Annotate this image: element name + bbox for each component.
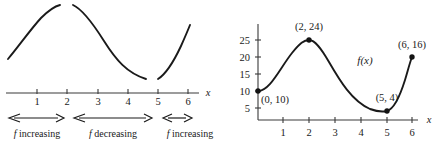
monotonicity-number-line-panel: 1 2 3 4 5 6 x	[0, 0, 222, 148]
y-tick-label-10: 10	[240, 86, 251, 97]
interval-arrow-increasing-1	[9, 114, 64, 122]
segment-caption-2-text: decreasing	[92, 128, 137, 139]
function-graph-panel: 5 10 15 20 25 1 2 3 4 5 6 x	[222, 0, 444, 148]
monotonicity-chart-svg: 1 2 3 4 5 6 x	[0, 0, 222, 148]
segment-caption-increasing-1: f increasing	[14, 128, 60, 139]
point-label-6-16: (6, 16)	[398, 39, 426, 51]
function-label: f(x)	[357, 54, 373, 67]
x-axis-label: x	[426, 114, 432, 125]
y-tick-label-25: 25	[240, 35, 251, 46]
curve-increasing-2	[158, 25, 190, 79]
left-axis-label-x: x	[205, 87, 211, 98]
x-tick-label-3: 3	[332, 127, 337, 138]
interval-arrow-decreasing	[74, 114, 152, 122]
y-tick-label-20: 20	[240, 52, 251, 63]
x-tick-label-2: 2	[306, 127, 311, 138]
curve-increasing-1	[8, 5, 60, 59]
x-tick-label-6: 6	[409, 127, 414, 138]
data-point-6-16	[409, 54, 414, 59]
segment-caption-3-text: increasing	[170, 128, 214, 139]
left-tick-label-1: 1	[34, 96, 39, 107]
point-label-0-10: (0, 10)	[261, 94, 289, 106]
left-tick-label-6: 6	[185, 96, 190, 107]
segment-caption-1-text: increasing	[17, 128, 61, 139]
interval-arrow-increasing-2	[163, 114, 192, 122]
segment-caption-increasing-2: f increasing	[167, 128, 213, 139]
segment-caption-decreasing: f decreasing	[89, 128, 137, 139]
x-tick-label-1: 1	[280, 127, 285, 138]
data-point-2-24	[306, 37, 311, 42]
left-tick-label-2: 2	[64, 96, 69, 107]
left-tick-label-3: 3	[95, 96, 100, 107]
left-tick-label-5: 5	[155, 96, 160, 107]
function-chart-svg: 5 10 15 20 25 1 2 3 4 5 6 x	[222, 0, 444, 148]
point-label-5-4: (5, 4)	[376, 92, 399, 104]
data-point-5-4	[384, 108, 389, 113]
data-point-0-10	[255, 88, 260, 93]
left-tick-label-4: 4	[125, 96, 131, 107]
curve-decreasing	[73, 5, 146, 79]
x-tick-label-4: 4	[358, 127, 364, 138]
y-tick-label-5: 5	[245, 103, 250, 114]
y-tick-label-15: 15	[240, 69, 251, 80]
point-label-2-24: (2, 24)	[295, 21, 323, 33]
x-tick-label-5: 5	[384, 127, 389, 138]
figure-container: 1 2 3 4 5 6 x	[0, 0, 444, 148]
